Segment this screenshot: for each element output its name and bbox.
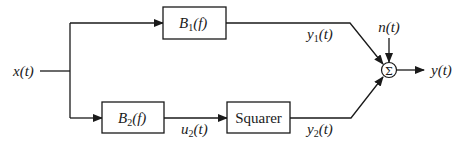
b1-name: B: [179, 15, 188, 31]
y1-path: [226, 23, 383, 64]
summing-junction: Σ: [382, 63, 397, 78]
y1-label: y1(t): [305, 26, 333, 44]
noise-label: n(t): [378, 19, 400, 36]
squarer-label: Squarer: [235, 110, 282, 126]
svg-text:B1(f): B1(f): [179, 15, 207, 33]
y2-label: y2(t): [305, 121, 333, 139]
y2-path: [290, 77, 383, 118]
u2-label: u2(t): [181, 121, 208, 139]
block-b1: B1(f): [163, 7, 226, 39]
input-label: x(t): [12, 63, 34, 80]
block-diagram: x(t) B1(f) B2(f) u2(t) Squarer y1(t) y2(…: [0, 0, 467, 142]
b2-name: B: [118, 110, 127, 126]
block-squarer: Squarer: [227, 102, 290, 133]
b1-arg: (f): [193, 15, 207, 32]
b2-arg: (f): [132, 110, 146, 127]
svg-text:B2(f): B2(f): [118, 110, 146, 128]
block-b2: B2(f): [102, 102, 164, 133]
output-label: y(t): [429, 62, 452, 79]
sigma-symbol: Σ: [385, 65, 393, 78]
